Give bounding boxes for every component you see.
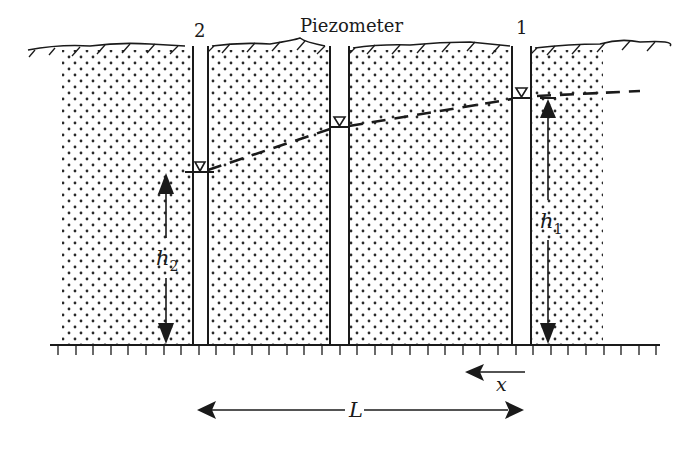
soil-block-2 bbox=[208, 50, 330, 345]
impermeable-base bbox=[50, 345, 660, 355]
water-level-icon-1 bbox=[512, 88, 531, 98]
water-level-icon-middle bbox=[330, 117, 349, 127]
l-label: L bbox=[348, 398, 363, 422]
piezometer-middle bbox=[330, 46, 349, 345]
x-direction: x bbox=[465, 364, 525, 395]
piezometer-diagram: h2 h1 x L Piezometer 2 1 bbox=[0, 0, 694, 450]
piezometer-2-number: 2 bbox=[194, 20, 205, 41]
ground-line-left bbox=[28, 43, 185, 50]
piezometer-title: Piezometer bbox=[300, 15, 403, 36]
x-label: x bbox=[496, 373, 507, 395]
soil-block-1 bbox=[62, 50, 193, 345]
piezometer-1-number: 1 bbox=[516, 17, 527, 38]
piezometer-2 bbox=[193, 46, 208, 345]
length-dimension: L bbox=[197, 398, 524, 422]
soil-block-3 bbox=[349, 50, 512, 345]
ground-line-mid-right bbox=[353, 42, 510, 48]
